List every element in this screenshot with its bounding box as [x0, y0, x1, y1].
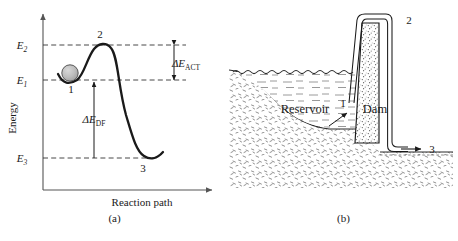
dam-analogy-svg: Reservoir Dam 1 2 3: [229, 0, 458, 212]
siphon-outlet-outer: [392, 142, 408, 147]
state-marker-2: 2: [406, 14, 412, 26]
state-marker-2: 2: [97, 28, 103, 40]
figure-root: E2 E1 E3 1 2 3 ΔEACT ΔEDF Energy Reactio…: [0, 0, 458, 241]
state-marker-3: 3: [140, 162, 146, 174]
level-label-E3: E3: [16, 152, 28, 167]
energy-diagram-svg: E2 E1 E3 1 2 3 ΔEACT ΔEDF Energy Reactio…: [0, 0, 229, 212]
dam-body: [355, 23, 379, 143]
level-label-E1: E1: [16, 74, 27, 89]
state-marker-3: 3: [429, 143, 435, 155]
dam-label: Dam: [363, 102, 388, 116]
x-axis-label: Reaction path: [112, 196, 173, 208]
y-axis-label: Energy: [6, 102, 18, 134]
level-label-E2: E2: [16, 39, 28, 54]
reservoir-label: Reservoir: [281, 102, 330, 116]
ball-icon: [62, 65, 78, 81]
panel-b-caption: (b): [229, 212, 458, 224]
panel-energy-diagram: E2 E1 E3 1 2 3 ΔEACT ΔEDF Energy Reactio…: [0, 0, 229, 241]
energy-profile-curve: [58, 44, 163, 158]
state-marker-1: 1: [68, 83, 74, 95]
panel-dam-analogy: Reservoir Dam 1 2 3 (b): [229, 0, 458, 241]
panel-a-caption: (a): [0, 212, 229, 224]
activation-energy-label: ΔEACT: [171, 57, 201, 72]
state-marker-1: 1: [340, 97, 346, 109]
